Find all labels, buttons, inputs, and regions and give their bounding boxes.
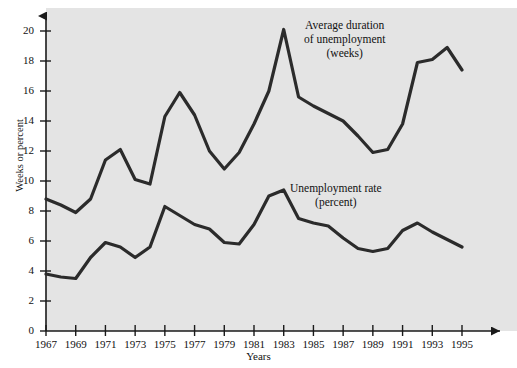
x-tick-label: 1995 [442, 338, 482, 350]
x-axis-label: Years [0, 350, 517, 362]
annotation-average-duration: Average duration of unemployment (weeks) [304, 18, 385, 60]
y-tick-label: 4 [10, 264, 34, 276]
y-tick-label: 0 [10, 324, 34, 336]
series-line-average-duration [46, 30, 462, 213]
chart-figure: 02468101214161820 1967196919711973197519… [0, 0, 517, 368]
series-line-unemployment-rate [46, 190, 462, 279]
annotation-unemployment-rate: Unemployment rate (percent) [290, 181, 382, 209]
y-tick-label: 20 [10, 24, 34, 36]
y-tick-label: 18 [10, 54, 34, 66]
annotation-duration-line-3: (weeks) [304, 46, 385, 60]
y-tick-label: 2 [10, 294, 34, 306]
annotation-duration-line-1: Average duration [304, 18, 385, 32]
annotation-rate-line-1: Unemployment rate [290, 181, 382, 195]
y-tick-label: 6 [10, 234, 34, 246]
chart-svg [0, 0, 517, 368]
annotation-duration-line-2: of unemployment [304, 32, 385, 46]
y-tick-label: 16 [10, 84, 34, 96]
annotation-rate-line-2: (percent) [290, 195, 382, 209]
y-axis-label: Weeks or percent [14, 96, 25, 216]
